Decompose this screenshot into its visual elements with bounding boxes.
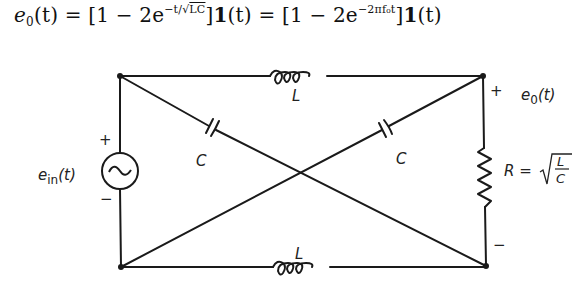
source-plus-sign: + — [99, 131, 112, 149]
node-top-left — [117, 73, 123, 79]
source-label: ein(t) — [38, 166, 76, 187]
left-capacitor-icon — [206, 119, 219, 136]
bottom-inductor-label: L — [295, 245, 303, 263]
lattice-circuit-diagram: L L C C + − ein(t) + − e0(t) R = L C — [0, 0, 588, 293]
resistor-sqrt-denominator: C — [556, 171, 566, 186]
resistor-icon — [478, 148, 491, 207]
resistor-label: R = — [504, 162, 532, 180]
left-capacitor-label: C — [196, 152, 207, 170]
resistor-sqrt-numerator: L — [557, 154, 564, 169]
right-capacitor-icon — [379, 120, 392, 137]
top-inductor-icon — [270, 71, 309, 84]
node-bottom-left — [118, 264, 124, 270]
node-top-right — [480, 73, 486, 79]
node-bottom-right — [483, 263, 489, 269]
right-capacitor-label: C — [396, 150, 407, 168]
bottom-inductor-icon — [273, 262, 312, 275]
output-minus-sign: − — [493, 236, 506, 254]
output-plus-sign: + — [490, 82, 503, 100]
diagonal-wire-2 — [121, 76, 483, 267]
top-inductor-label: L — [292, 87, 300, 105]
output-label: e0(t) — [521, 86, 555, 107]
source-minus-sign: − — [100, 190, 113, 208]
